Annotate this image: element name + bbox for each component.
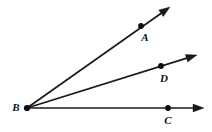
ray-bd-arrowhead-icon [185,54,197,62]
ray-ba-arrowhead-icon [159,7,170,17]
vertex-b-dot [24,105,30,111]
point-d-label: D [159,72,168,84]
point-d-dot [158,63,164,69]
vertex-b-group: B [11,101,30,113]
vertex-b-label: B [11,101,19,113]
angle-diagram-canvas: A D C B [0,0,212,132]
point-c-label: C [164,114,172,126]
geometry-figure: A D C B [0,0,212,132]
point-a-dot [138,23,144,29]
ray-bd-group: D [27,54,197,108]
ray-ba-group: A [27,7,170,108]
ray-bc-group: C [27,104,204,125]
ray-bc-arrowhead-icon [193,104,204,112]
point-a-label: A [140,31,148,43]
point-c-dot [165,105,171,111]
